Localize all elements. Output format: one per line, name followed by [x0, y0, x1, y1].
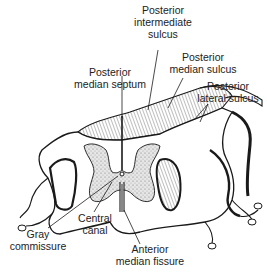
label-posterior-lateral-sulcus: Posterior lateral sulcus [190, 80, 266, 104]
label-anterior-median-fissure: Anterior median fissure [108, 243, 192, 267]
spinal-cord-diagram: Posterior intermediate sulcus Posterior … [0, 0, 267, 275]
label-central-canal: Central canal [70, 212, 120, 236]
label-posterior-median-septum: Posterior median septum [68, 66, 152, 90]
label-gray-commissure: Gray commissure [0, 228, 76, 252]
label-posterior-intermediate-sulcus: Posterior intermediate sulcus [126, 4, 200, 40]
label-posterior-median-sulcus: Posterior median sulcus [163, 51, 243, 75]
